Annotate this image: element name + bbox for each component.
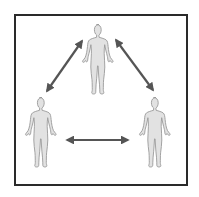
person-left-figure (26, 98, 56, 167)
person-right-figure (140, 98, 170, 167)
arrow-top-left (47, 41, 82, 91)
diagram-canvas (0, 0, 199, 197)
person-top-figure (83, 25, 113, 94)
arrow-top-right (116, 40, 153, 90)
